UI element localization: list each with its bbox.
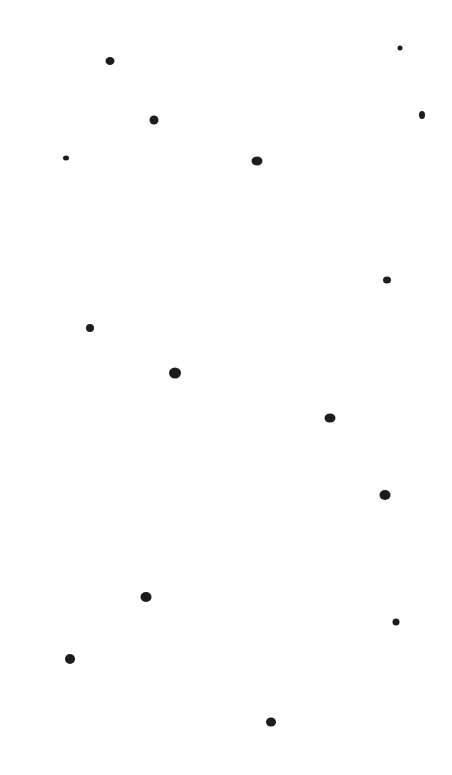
ink-dot	[63, 156, 69, 161]
ink-dot	[393, 619, 400, 626]
ink-dot	[86, 324, 94, 332]
ink-dot	[169, 368, 181, 379]
ink-dot	[65, 654, 75, 664]
ink-dot	[380, 490, 391, 500]
ink-dot	[383, 277, 391, 284]
ink-dot	[150, 116, 159, 125]
ink-dot	[141, 592, 152, 602]
ink-dot	[398, 46, 403, 51]
dot-canvas	[0, 0, 452, 775]
ink-dot	[419, 111, 425, 119]
ink-dot	[266, 718, 276, 727]
ink-dot	[106, 57, 115, 65]
ink-dot	[252, 157, 263, 166]
ink-dot	[325, 414, 336, 423]
